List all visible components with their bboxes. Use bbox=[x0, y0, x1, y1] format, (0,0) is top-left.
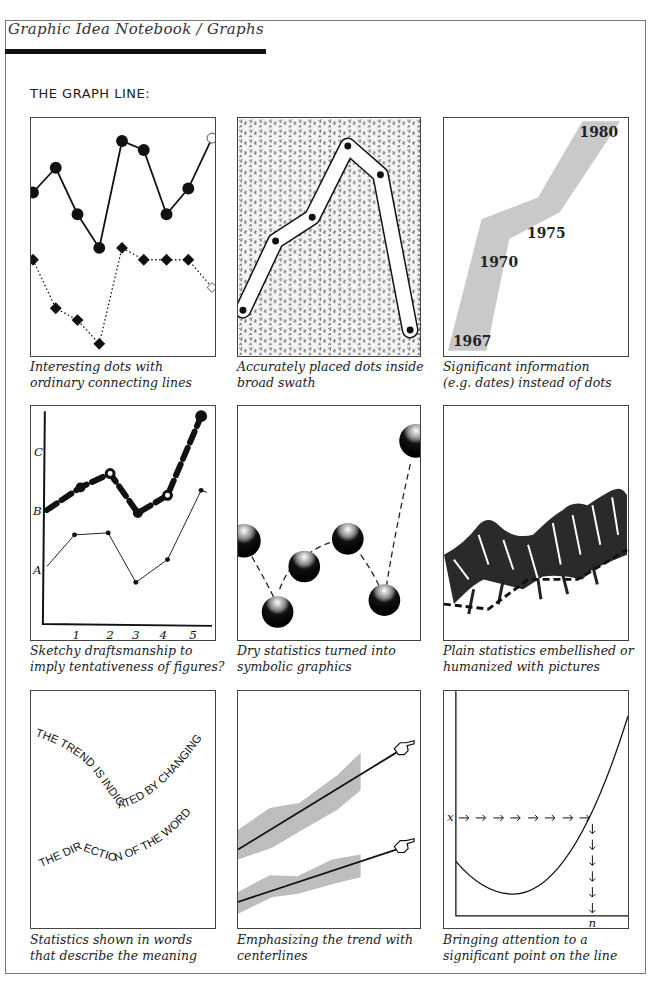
caption-sketchy-draftsmanship: Sketchy draftsmanship to imply tentative… bbox=[30, 643, 230, 675]
zebra-illustration bbox=[444, 489, 627, 614]
panel-sketchy-draftsmanship: C B A 1 2 3 4 5 bbox=[30, 405, 216, 641]
caption-symbolic-graphics: Dry statistics turned into symbolic grap… bbox=[237, 643, 437, 675]
svg-text:3: 3 bbox=[132, 628, 140, 640]
caption-significant-point: Bringing attention to a significant poin… bbox=[443, 932, 643, 964]
trend-phrase-1: THE TREND IS INDICATED BY CHANGING bbox=[34, 726, 203, 810]
svg-text:A: A bbox=[32, 563, 42, 577]
svg-text:1: 1 bbox=[73, 628, 81, 640]
pointing-hand-icon bbox=[394, 839, 414, 853]
centerlines-chart bbox=[238, 691, 420, 928]
svg-text:2: 2 bbox=[105, 628, 114, 640]
caption-words-trend: Statistics shown in words that describe … bbox=[30, 932, 230, 964]
panel-embellished-pictures bbox=[443, 405, 629, 641]
year-label-1970: 1970 bbox=[480, 254, 519, 270]
svg-text:C: C bbox=[34, 445, 43, 459]
dates-band-chart: 1980 1975 1970 1967 bbox=[444, 118, 628, 356]
year-label-1967: 1967 bbox=[453, 333, 492, 349]
svg-text:4: 4 bbox=[159, 628, 168, 640]
zebra-chart bbox=[444, 406, 628, 640]
header-rule bbox=[5, 49, 266, 54]
swath-chart bbox=[238, 118, 420, 356]
panel-interesting-dots bbox=[30, 117, 216, 357]
pointing-hand-icon bbox=[394, 741, 414, 755]
year-label-1980: 1980 bbox=[580, 124, 619, 140]
dots-chart bbox=[31, 118, 215, 356]
caption-embellished-pictures: Plain statistics embellished or humanize… bbox=[443, 643, 643, 675]
caption-dates-band: Significant information (e.g. dates) ins… bbox=[443, 359, 643, 391]
words-trend-chart: THE TREND IS INDICATED BY CHANGING THE D… bbox=[31, 691, 215, 928]
panel-significant-point: x n bbox=[443, 690, 629, 929]
page-title: Graphic Idea Notebook / Graphs bbox=[8, 20, 264, 38]
sphere-markers bbox=[238, 424, 420, 628]
x-marker: x bbox=[447, 810, 454, 824]
section-title: THE GRAPH LINE: bbox=[30, 86, 150, 101]
year-label-1975: 1975 bbox=[527, 225, 566, 241]
significant-point-chart: x n bbox=[444, 691, 628, 928]
caption-centerlines: Emphasizing the trend with centerlines bbox=[237, 932, 437, 964]
sketchy-chart: C B A 1 2 3 4 5 bbox=[31, 406, 215, 640]
panel-centerlines bbox=[237, 690, 421, 929]
panel-broad-swath bbox=[237, 117, 421, 357]
svg-text:5: 5 bbox=[189, 628, 197, 640]
svg-text:B: B bbox=[32, 504, 42, 518]
caption-interesting-dots: Interesting dots with ordinary connectin… bbox=[30, 359, 230, 391]
n-marker: n bbox=[588, 916, 596, 928]
panel-symbolic-graphics bbox=[237, 405, 421, 641]
caption-broad-swath: Accurately placed dots inside broad swat… bbox=[237, 359, 437, 391]
panel-dates-band: 1980 1975 1970 1967 bbox=[443, 117, 629, 357]
symbolic-graphics-chart bbox=[238, 406, 420, 640]
panel-words-trend: THE TREND IS INDICATED BY CHANGING THE D… bbox=[30, 690, 216, 929]
